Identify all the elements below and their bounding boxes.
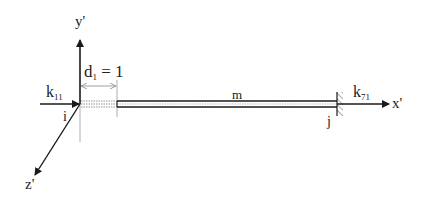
x-axis-label: x' [392,96,402,111]
member-label: m [232,88,242,101]
node-i-label: i [63,110,67,124]
k71-label: k71 [353,84,370,102]
k11-label: k11 [46,84,63,102]
offset-dimension-label: d1 = 1 [84,63,124,82]
node-j-label: j [327,115,331,129]
z-axis-label: z' [25,177,34,192]
z-axis [35,104,80,175]
beam-member [117,101,337,107]
y-axis-label: y' [75,14,85,29]
beam-diagram: y' x' z' i j m k11 k71 d1 = 1 [0,0,424,198]
